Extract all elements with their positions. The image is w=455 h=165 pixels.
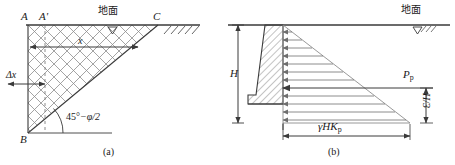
figure-root: A A' B C 地面 x Δx 45°−φ/2 (a): [0, 0, 455, 165]
resultant-label: Pp: [403, 69, 414, 82]
panel-b-caption: (b): [328, 147, 340, 157]
pressure-label-hk: HK: [322, 120, 337, 132]
vertex-label-c: C: [153, 11, 160, 22]
dimension-label-h: H: [230, 68, 238, 79]
ground-label-a: 地面: [98, 6, 118, 16]
vertex-label-a-prime: A': [39, 11, 48, 22]
resultant-label-main: P: [403, 68, 410, 80]
pressure-triangle: [283, 25, 410, 123]
ground-hatch: [164, 26, 199, 34]
panel-a: A A' B C 地面 x Δx 45°−φ/2 (a): [0, 0, 228, 165]
panel-a-drawing: [0, 0, 228, 165]
ground-label-b: 地面: [401, 5, 421, 15]
vertex-label-b: B: [20, 134, 27, 145]
ground-level-triangle-icon-b: [413, 27, 422, 34]
angle-label: 45°−φ/2: [66, 112, 100, 122]
panel-b-drawing: [228, 0, 455, 165]
angle-label-deg: 45°: [66, 111, 80, 122]
vertex-label-a: A: [21, 11, 28, 22]
pressure-label-sub: p: [338, 125, 342, 134]
dimension-gamma-h-kp: [283, 124, 411, 140]
dimension-delta-x: [8, 81, 46, 86]
retaining-wall: [248, 25, 283, 104]
dimension-label-delta-x: Δx: [6, 70, 16, 80]
dimension-label-h-over-3: H/3: [421, 93, 431, 108]
angle-label-rest: −φ/2: [80, 111, 100, 122]
pressure-magnitude-label: γHKp: [318, 121, 342, 134]
dimension-x: [30, 44, 139, 49]
dimension-label-x: x: [78, 36, 82, 46]
resultant-label-sub: p: [410, 73, 414, 82]
panel-b: 地面 H Pp H/3 γHKp (b): [228, 0, 455, 165]
ground-hatch-b: [421, 26, 436, 32]
panel-a-caption: (a): [103, 147, 114, 157]
